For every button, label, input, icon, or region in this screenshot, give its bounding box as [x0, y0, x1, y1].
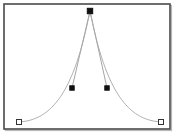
curve-editor-panel[interactable]	[0, 0, 176, 135]
curve-canvas[interactable]	[0, 0, 176, 135]
apex-node[interactable]	[87, 8, 92, 13]
handle-left[interactable]	[70, 86, 74, 90]
endpoint-left[interactable]	[17, 120, 22, 125]
endpoint-right[interactable]	[159, 120, 164, 125]
handle-right[interactable]	[105, 86, 109, 90]
